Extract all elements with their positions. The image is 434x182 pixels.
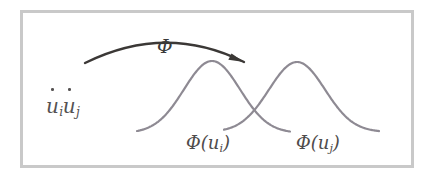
input-point-uj-subscript: j xyxy=(76,104,80,119)
phi-ui-subscript: i xyxy=(220,142,224,155)
phi-map-label: Φ xyxy=(157,37,173,56)
input-points-label: uiuj xyxy=(46,96,80,116)
gaussian-curve-phi-ui xyxy=(137,61,290,132)
phi-uj-subscript: j xyxy=(330,142,333,155)
input-point-uj: u xyxy=(63,96,76,116)
phi-ui-label: Φ(ui) xyxy=(186,134,230,152)
input-point-uj-letter: u xyxy=(63,94,76,118)
figure-container: uiuj Φ Φ(ui) Φ(uj) xyxy=(0,0,434,182)
phi-ui-prefix: Φ(u xyxy=(186,132,219,153)
input-point-ui-letter: u xyxy=(46,94,59,118)
phi-uj-label: Φ(uj) xyxy=(296,134,340,152)
overdot-j-icon xyxy=(68,88,71,91)
input-point-ui: u xyxy=(46,96,59,116)
phi-ui-suffix: ) xyxy=(223,132,230,153)
phi-uj-prefix: Φ(u xyxy=(296,132,329,153)
figure-canvas xyxy=(0,0,434,182)
overdot-i-icon xyxy=(51,88,54,91)
gaussian-curve-phi-uj xyxy=(224,62,379,131)
phi-uj-suffix: ) xyxy=(333,132,340,153)
